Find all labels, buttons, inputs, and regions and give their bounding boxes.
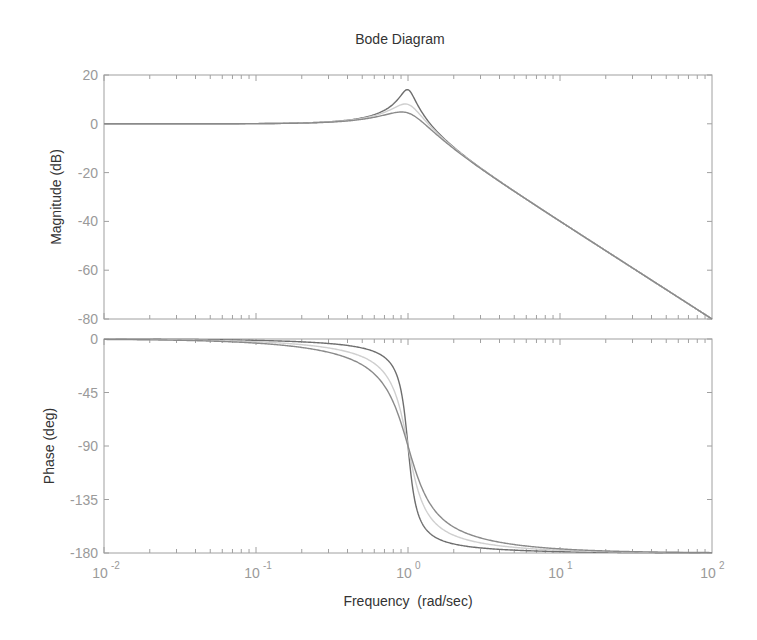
bode-chart: Bode Diagram 200-20-40-60-80 0-45-90-135…	[0, 0, 757, 640]
phase-curves	[104, 339, 712, 553]
phase-axes: 0-45-90-135-180	[70, 331, 712, 561]
x-tick-exponent: -2	[111, 560, 120, 571]
magnitude-ytick-label: -40	[78, 213, 98, 229]
magnitude-curve-zeta=0.3	[104, 112, 712, 319]
phase-ylabel: Phase (deg)	[41, 408, 57, 484]
magnitude-ytick-label: -60	[78, 262, 98, 278]
phase-ytick-label: -90	[78, 438, 98, 454]
magnitude-ytick-label: -80	[78, 311, 98, 327]
phase-ytick-label: -135	[70, 492, 98, 508]
phase-curve-zeta=0.3	[104, 339, 712, 552]
x-tick-label: 10	[244, 565, 260, 581]
magnitude-ytick-label: 0	[90, 116, 98, 132]
phase-ytick-label: -180	[70, 545, 98, 561]
x-tick-labels: 10-210-1100101102	[92, 560, 725, 581]
x-tick-label: 10	[700, 565, 716, 581]
magnitude-curve-zeta=0.2	[104, 104, 712, 319]
x-tick-exponent: 1	[567, 560, 573, 571]
phase-ytick-label: 0	[90, 331, 98, 347]
x-tick-exponent: -1	[263, 560, 272, 571]
magnitude-axes: 200-20-40-60-80	[78, 67, 712, 327]
magnitude-ytick-label: -20	[78, 165, 98, 181]
magnitude-curves	[104, 90, 712, 319]
phase-ytick-label: -45	[78, 385, 98, 401]
x-tick-label: 10	[92, 565, 108, 581]
magnitude-plot-frame	[104, 75, 712, 319]
magnitude-ytick-label: 20	[82, 67, 98, 83]
x-axis-label: Frequency (rad/sec)	[343, 593, 472, 609]
x-tick-label: 10	[396, 565, 412, 581]
x-tick-exponent: 0	[415, 560, 421, 571]
x-tick-exponent: 2	[719, 560, 725, 571]
chart-title: Bode Diagram	[355, 31, 445, 47]
magnitude-ylabel: Magnitude (dB)	[48, 149, 64, 245]
x-tick-label: 10	[548, 565, 564, 581]
